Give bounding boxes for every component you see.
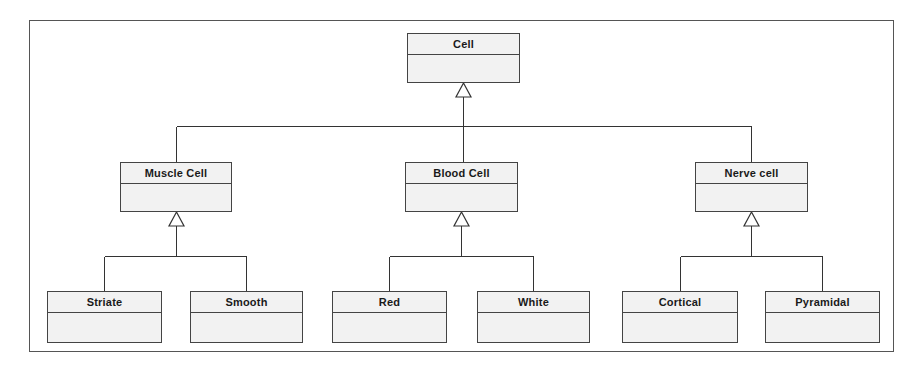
class-body-nerve-cell [696, 184, 807, 211]
class-name-cell: Cell [408, 34, 519, 55]
class-box-cell[interactable]: Cell [407, 33, 520, 83]
class-box-white[interactable]: White [477, 291, 590, 343]
class-box-muscle-cell[interactable]: Muscle Cell [120, 162, 232, 212]
class-box-nerve-cell[interactable]: Nerve cell [695, 162, 808, 212]
class-body-pyramidal [766, 313, 879, 342]
class-body-blood-cell [406, 184, 517, 211]
class-name-pyramidal: Pyramidal [766, 292, 879, 313]
class-box-smooth[interactable]: Smooth [190, 291, 303, 343]
class-body-cortical [623, 313, 737, 342]
class-body-muscle-cell [121, 184, 231, 211]
class-body-red [333, 313, 446, 342]
class-name-cortical: Cortical [623, 292, 737, 313]
class-body-smooth [191, 313, 302, 342]
class-body-white [478, 313, 589, 342]
class-name-smooth: Smooth [191, 292, 302, 313]
class-name-nerve-cell: Nerve cell [696, 163, 807, 184]
class-body-striate [48, 313, 161, 342]
class-box-red[interactable]: Red [332, 291, 447, 343]
class-box-cortical[interactable]: Cortical [622, 291, 738, 343]
class-name-striate: Striate [48, 292, 161, 313]
class-name-white: White [478, 292, 589, 313]
class-body-cell [408, 55, 519, 82]
diagram-canvas: Cell Muscle Cell Blood Cell Nerve cell S… [0, 0, 915, 370]
class-box-blood-cell[interactable]: Blood Cell [405, 162, 518, 212]
class-name-red: Red [333, 292, 446, 313]
class-name-blood-cell: Blood Cell [406, 163, 517, 184]
class-name-muscle-cell: Muscle Cell [121, 163, 231, 184]
class-box-striate[interactable]: Striate [47, 291, 162, 343]
class-box-pyramidal[interactable]: Pyramidal [765, 291, 880, 343]
